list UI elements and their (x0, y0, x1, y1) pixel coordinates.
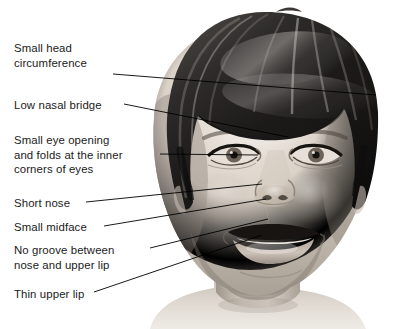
label-short-nose: Short nose (14, 196, 70, 211)
label-small-eye-opening: Small eye opening and folds at the inner… (14, 133, 123, 177)
label-small-head-circumference: Small head circumference (14, 41, 87, 70)
label-no-groove: No groove between nose and upper lip (14, 243, 114, 272)
label-thin-upper-lip: Thin upper lip (14, 287, 84, 302)
label-low-nasal-bridge: Low nasal bridge (14, 98, 102, 113)
label-small-midface: Small midface (14, 220, 87, 235)
